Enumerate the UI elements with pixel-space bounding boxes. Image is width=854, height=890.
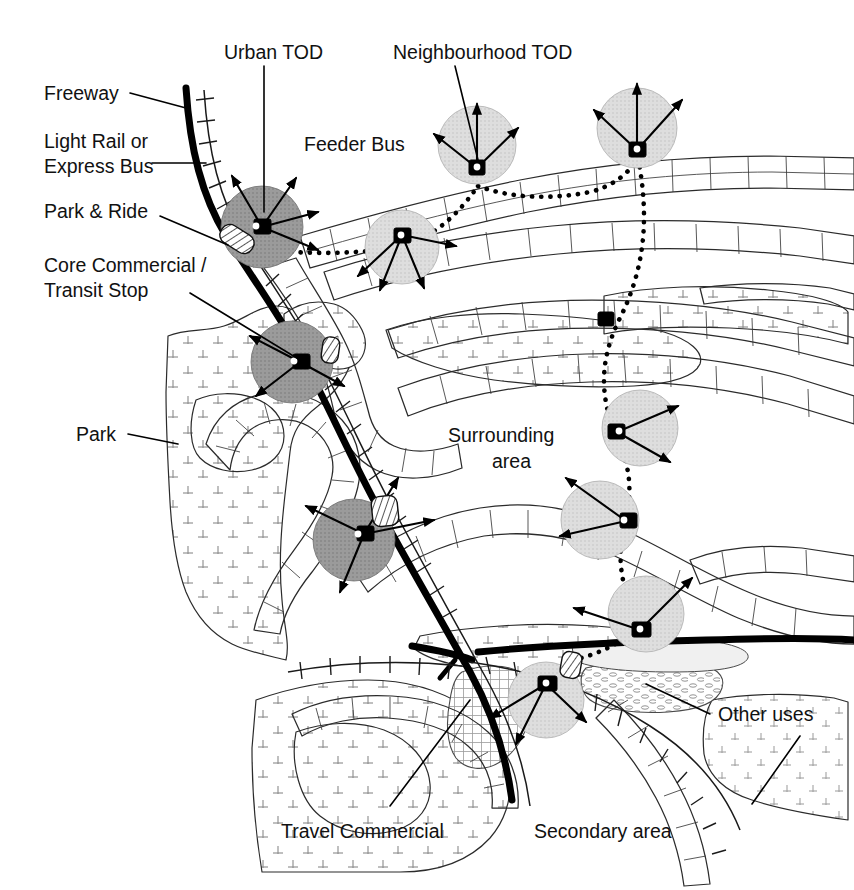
label-feeder-bus: Feeder Bus [304, 133, 405, 155]
park-and-ride-bottom [559, 650, 583, 679]
neighbourhood-tod-5 [560, 478, 639, 559]
label-urban-tod: Urban TOD [224, 41, 323, 63]
urban-tod-north [221, 176, 318, 268]
neighbourhood-tod-1 [434, 104, 518, 184]
road-right-connector [690, 547, 854, 585]
label-travel-commercial: Travel Commercial [281, 820, 444, 842]
neighbourhood-tod-3 [594, 84, 682, 168]
label-secondary-area: Secondary area [534, 820, 672, 842]
leader-freeway [130, 93, 186, 108]
label-freeway: Freeway [44, 82, 119, 104]
label-other-uses: Other uses [718, 703, 814, 725]
label-core-commercial-line1: Core Commercial / [44, 254, 207, 276]
label-core-commercial-line2: Transit Stop [44, 279, 149, 301]
label-light-rail-line2: Express Bus [44, 155, 154, 177]
label-park-and-ride: Park & Ride [44, 200, 148, 222]
transit-stop-spine-upper [598, 312, 614, 326]
feeder-bus-routes [264, 158, 644, 688]
neighbourhood-tod-4 [602, 390, 678, 466]
label-light-rail-line1: Light Rail or [44, 130, 149, 152]
light-rail-bottom-left [288, 663, 462, 672]
label-neighbourhood-tod: Neighbourhood TOD [393, 41, 572, 63]
map-canvas: Freeway Light Rail or Express Bus Park &… [0, 0, 854, 890]
neighbourhood-tod-2 [358, 210, 456, 290]
park-and-ride-south [371, 495, 400, 528]
label-surrounding-area-line1: Surrounding [448, 424, 554, 446]
tod-map-diagram: Freeway Light Rail or Express Bus Park &… [0, 0, 854, 890]
label-park: Park [76, 423, 116, 445]
label-surrounding-area-line2: area [492, 450, 531, 472]
park-and-ride-mid [320, 336, 340, 364]
